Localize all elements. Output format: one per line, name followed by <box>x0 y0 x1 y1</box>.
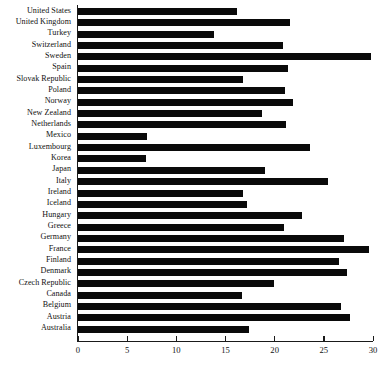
bar-row[interactable] <box>78 108 373 119</box>
category-label: Norway <box>0 96 71 105</box>
bar[interactable] <box>78 76 243 83</box>
bar[interactable] <box>78 99 293 106</box>
bar-row[interactable] <box>78 278 373 289</box>
bar[interactable] <box>78 246 369 253</box>
bar[interactable] <box>78 201 247 208</box>
category-label: Iceland <box>0 198 71 207</box>
bar-row[interactable] <box>78 74 373 85</box>
bar-row[interactable] <box>78 176 373 187</box>
category-label: Poland <box>0 85 71 94</box>
category-label: Canada <box>0 289 71 298</box>
bar[interactable] <box>78 303 341 310</box>
bar-row[interactable] <box>78 51 373 62</box>
bar-row[interactable] <box>78 131 373 142</box>
x-axis-tick-label: 15 <box>214 345 238 355</box>
category-label: Belgium <box>0 300 71 309</box>
category-label: Hungary <box>0 210 71 219</box>
bar-row[interactable] <box>78 324 373 335</box>
bar-row[interactable] <box>78 6 373 17</box>
category-label: Austria <box>0 312 71 321</box>
bar-row[interactable] <box>78 312 373 323</box>
bar[interactable] <box>78 258 339 265</box>
category-label: France <box>0 244 71 253</box>
x-axis-tick-label: 25 <box>312 345 336 355</box>
bar-row[interactable] <box>78 142 373 153</box>
category-label: Luxembourg <box>0 142 71 151</box>
bar[interactable] <box>78 42 283 49</box>
bar[interactable] <box>78 133 147 140</box>
bar[interactable] <box>78 144 310 151</box>
bar-row[interactable] <box>78 267 373 278</box>
bar[interactable] <box>78 314 350 321</box>
category-label: Mexico <box>0 130 71 139</box>
x-axis-line <box>77 341 373 342</box>
bar-row[interactable] <box>78 256 373 267</box>
bar-row[interactable] <box>78 63 373 74</box>
bar[interactable] <box>78 31 214 38</box>
bar-row[interactable] <box>78 222 373 233</box>
category-label: Ireland <box>0 187 71 196</box>
bar[interactable] <box>78 212 302 219</box>
bar-row[interactable] <box>78 40 373 51</box>
bar-row[interactable] <box>78 153 373 164</box>
bar[interactable] <box>78 178 328 185</box>
bar[interactable] <box>78 292 242 299</box>
category-label: United Kingdom <box>0 17 71 26</box>
category-label: Finland <box>0 255 71 264</box>
bar-row[interactable] <box>78 244 373 255</box>
x-axis-tick-label: 30 <box>361 345 385 355</box>
bar[interactable] <box>78 87 285 94</box>
bar-row[interactable] <box>78 97 373 108</box>
x-axis-tick-label: 5 <box>115 345 139 355</box>
bar-row[interactable] <box>78 199 373 210</box>
bar-row[interactable] <box>78 85 373 96</box>
category-label: Greece <box>0 221 71 230</box>
bar[interactable] <box>78 280 274 287</box>
x-axis-tick-label: 0 <box>66 345 90 355</box>
category-label: Japan <box>0 164 71 173</box>
category-label: Denmark <box>0 266 71 275</box>
category-label: Netherlands <box>0 119 71 128</box>
bar[interactable] <box>78 190 243 197</box>
bar[interactable] <box>78 326 249 333</box>
bar[interactable] <box>78 53 371 60</box>
bar[interactable] <box>78 65 288 72</box>
bar-row[interactable] <box>78 165 373 176</box>
bar[interactable] <box>78 121 286 128</box>
bar-row[interactable] <box>78 29 373 40</box>
bar-row[interactable] <box>78 290 373 301</box>
bar[interactable] <box>78 19 290 26</box>
category-label: New Zealand <box>0 108 71 117</box>
x-axis-tick <box>225 336 226 341</box>
y-axis-line <box>77 5 78 342</box>
bar[interactable] <box>78 235 344 242</box>
category-label: Slovak Republic <box>0 74 71 83</box>
bar-row[interactable] <box>78 119 373 130</box>
bar-chart: United StatesUnited KingdomTurkeySwitzer… <box>0 0 391 365</box>
bar[interactable] <box>78 8 237 15</box>
bar[interactable] <box>78 110 262 117</box>
category-label: United States <box>0 6 71 15</box>
bar[interactable] <box>78 155 146 162</box>
category-label: Turkey <box>0 28 71 37</box>
bar-row[interactable] <box>78 210 373 221</box>
bar-row[interactable] <box>78 188 373 199</box>
bar[interactable] <box>78 269 347 276</box>
category-label: Australia <box>0 323 71 332</box>
bar[interactable] <box>78 167 265 174</box>
category-label: Spain <box>0 62 71 71</box>
bar[interactable] <box>78 224 284 231</box>
plot-area <box>78 0 373 340</box>
y-axis-category-labels: United StatesUnited KingdomTurkeySwitzer… <box>0 0 74 340</box>
category-label: Korea <box>0 153 71 162</box>
x-axis-tick <box>373 336 374 341</box>
category-label: Sweden <box>0 51 71 60</box>
x-axis-tick <box>127 336 128 341</box>
bar-row[interactable] <box>78 17 373 28</box>
x-axis-tick-label: 10 <box>164 345 188 355</box>
bar-row[interactable] <box>78 301 373 312</box>
x-axis-tick <box>78 336 79 341</box>
category-label: Czech Republic <box>0 278 71 287</box>
bar-row[interactable] <box>78 233 373 244</box>
x-axis-tick <box>274 336 275 341</box>
